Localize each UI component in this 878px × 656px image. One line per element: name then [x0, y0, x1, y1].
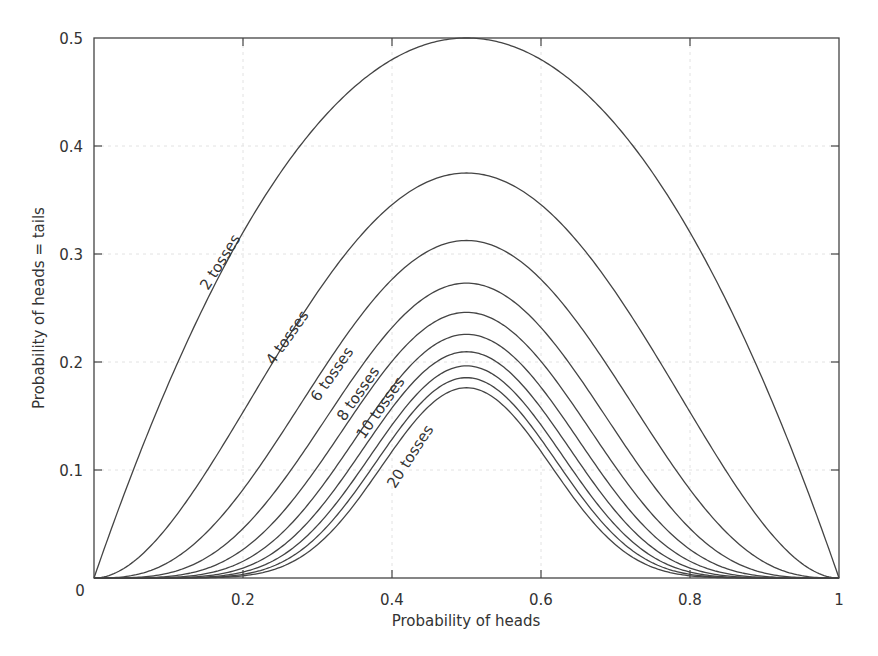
x-tick-label: 0.4: [380, 591, 404, 609]
x-tick-label: 0: [75, 582, 85, 600]
x-tick-label: 0.6: [529, 591, 553, 609]
y-axis-label: Probability of heads = tails: [30, 207, 48, 409]
curve-20-tosses: [94, 388, 839, 578]
y-tick-label: 0.1: [59, 462, 83, 480]
x-tick-label: 0.8: [678, 591, 702, 609]
curve-12-tosses: [94, 334, 839, 578]
x-tick-label: 0.2: [231, 591, 255, 609]
curve-18-tosses: [94, 378, 839, 578]
x-tick-label: 1: [834, 591, 844, 609]
axis-ticks: 00.20.40.60.810.10.20.30.40.5: [59, 30, 844, 609]
curve-label: 20 tosses: [383, 421, 437, 491]
y-tick-label: 0.4: [59, 138, 83, 156]
curve-2-tosses: [94, 38, 839, 578]
curve-14-tosses: [94, 352, 839, 578]
curve-label: 2 tosses: [196, 231, 244, 293]
curve-label: 4 tosses: [262, 307, 312, 368]
curves: [94, 38, 839, 578]
plot-frame: [94, 38, 839, 578]
y-tick-label: 0.5: [59, 30, 83, 48]
grid-lines: [94, 38, 839, 578]
x-axis-label: Probability of heads: [392, 612, 541, 630]
y-tick-label: 0.2: [59, 354, 83, 372]
curve-6-tosses: [94, 241, 839, 579]
probability-chart: 00.20.40.60.810.10.20.30.40.5 2 tosses4 …: [0, 0, 878, 656]
y-tick-label: 0.3: [59, 246, 83, 264]
curve-4-tosses: [94, 173, 839, 578]
